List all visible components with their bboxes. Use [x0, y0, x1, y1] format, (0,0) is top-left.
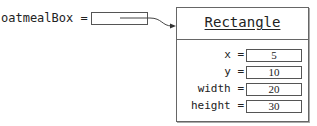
field-value: 20	[246, 83, 302, 96]
field-name: x =	[224, 48, 244, 62]
field-row-height: height = 30	[177, 99, 308, 113]
field-row-width: width = 20	[177, 82, 308, 96]
variable-name: oatmealBox	[1, 11, 73, 25]
object-box: Rectangle x = 5 y = 10 width = 20 height…	[176, 7, 309, 122]
field-name: width =	[198, 82, 244, 96]
field-row-y: y = 10	[177, 65, 308, 79]
field-value: 30	[246, 100, 302, 113]
reference-box	[91, 12, 148, 25]
variable-label: oatmealBox =	[1, 11, 88, 25]
class-name: Rectangle	[177, 14, 308, 30]
field-name: y =	[224, 65, 244, 79]
assign-operator: =	[80, 11, 87, 25]
field-row-x: x = 5	[177, 48, 308, 62]
object-header: Rectangle	[177, 8, 308, 40]
field-value: 10	[246, 66, 302, 79]
field-value: 5	[246, 49, 302, 62]
field-name: height =	[191, 99, 244, 113]
